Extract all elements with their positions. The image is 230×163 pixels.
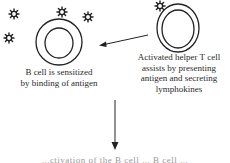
t-cell-label: Activated helper T cell assists by prese… [128, 52, 230, 94]
t-cell-icon [157, 4, 199, 52]
bottom-caption-cropped: ...ctivation of the B cell ... B cell ..… [0, 155, 230, 163]
antigen-icon [4, 7, 93, 43]
arrow-down-icon [112, 100, 119, 150]
t-cell-label-line: lymphokines [128, 84, 230, 95]
b-cell-icon [36, 19, 82, 65]
t-cell-label-line: assists by presenting [128, 63, 230, 74]
b-cell-label-line: by binding of antigen [14, 78, 104, 89]
b-cell-label: B cell is sensitized by binding of antig… [14, 67, 104, 88]
t-cell-label-line: Activated helper T cell [128, 52, 230, 63]
antigen-icon [155, 1, 165, 11]
arrow-left-icon [99, 35, 148, 47]
t-cell-label-line: antigen and secreting [128, 73, 230, 84]
b-cell-label-line: B cell is sensitized [14, 67, 104, 78]
